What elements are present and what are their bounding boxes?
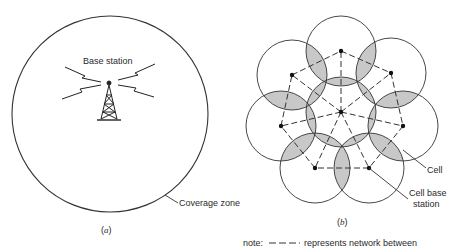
caption-a: (a) [101,226,112,235]
panel-b [246,16,438,203]
network-link-ring [281,126,315,168]
coverage-zone-leader [165,195,178,203]
base-station-node [279,124,283,128]
caption-b: (b) [337,218,348,227]
panel-a [12,16,208,212]
cell-base-station-leader [369,168,408,199]
note-prefix: note: [243,239,263,248]
caption-paren: ) [345,217,348,227]
base-station-tower-icon [97,81,121,120]
base-station-node [389,71,393,75]
base-station-node [313,166,317,170]
note-text: represents network between [304,239,417,248]
base-station-node [401,124,405,128]
coverage-zone-label: Coverage zone [179,199,240,208]
cell-leader [403,150,426,168]
caption-paren: ) [109,225,112,235]
network-link-ring [369,126,403,168]
cell-base-station-label-line2: station [413,200,440,209]
cell-label: Cell [427,166,443,175]
diagram-canvas [0,0,450,250]
base-station-node [339,110,343,114]
base-station-node [339,49,343,53]
cell-base-station-label-line1: Cell base [409,189,447,198]
base-station-node [290,73,294,77]
base-station-label: Base station [83,57,133,66]
